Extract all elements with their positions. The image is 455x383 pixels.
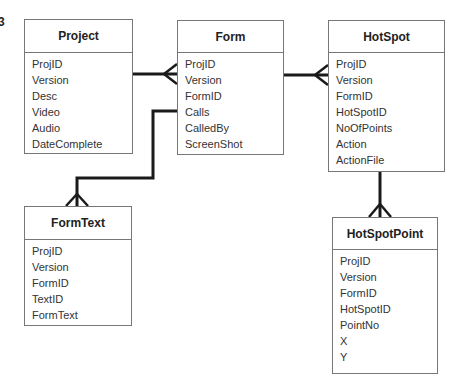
field: HotSpotID	[340, 301, 437, 317]
entity-title: Project	[25, 20, 132, 53]
field: ProjID	[340, 253, 437, 269]
field: Version	[32, 72, 132, 88]
field: DateComplete	[32, 136, 132, 152]
field: Version	[185, 72, 283, 88]
entity-formtext: FormText ProjID Version FormID TextID Fo…	[24, 206, 132, 326]
field: X	[340, 333, 437, 349]
field: Calls	[185, 104, 283, 120]
field: ProjID	[336, 56, 444, 72]
link-project-form	[132, 64, 177, 84]
field-list: ProjID Version FormID TextID FormText	[25, 240, 131, 323]
entity-hotspotpoint: HotSpotPoint ProjID Version FormID HotSp…	[332, 217, 438, 374]
field: CalledBy	[185, 120, 283, 136]
field-list: ProjID Version Desc Video Audio DateComp…	[25, 53, 132, 152]
entity-title: FormText	[25, 207, 131, 240]
link-form-hotspot	[283, 65, 328, 85]
field: HotSpotID	[336, 104, 444, 120]
field: PointNo	[340, 317, 437, 333]
field-list: ProjID Version FormID Calls CalledBy Scr…	[178, 53, 283, 152]
entity-form: Form ProjID Version FormID Calls CalledB…	[177, 20, 284, 155]
field: TextID	[32, 291, 131, 307]
link-hotspot-hotspotpoint	[369, 171, 391, 217]
field: ScreenShot	[185, 136, 283, 152]
field: NoOfPoints	[336, 120, 444, 136]
entity-title: HotSpot	[329, 21, 444, 53]
field: FormID	[336, 88, 444, 104]
field-list: ProjID Version FormID HotSpotID PointNo …	[333, 250, 437, 365]
field: Version	[340, 269, 437, 285]
field: Audio	[32, 120, 132, 136]
entity-title: HotSpotPoint	[333, 218, 437, 250]
field: FormID	[185, 88, 283, 104]
entity-hotspot: HotSpot ProjID Version FormID HotSpotID …	[328, 20, 445, 172]
field: Version	[32, 259, 131, 275]
field: Desc	[32, 88, 132, 104]
field: FormText	[32, 307, 131, 323]
field: ActionFile	[336, 152, 444, 168]
er-diagram: 3	[0, 0, 455, 383]
field: Action	[336, 136, 444, 152]
entity-title: Form	[178, 21, 283, 53]
field: ProjID	[32, 56, 132, 72]
field-list: ProjID Version FormID HotSpotID NoOfPoin…	[329, 53, 444, 168]
field: FormID	[32, 275, 131, 291]
field: ProjID	[32, 243, 131, 259]
field: Y	[340, 349, 437, 365]
entity-project: Project ProjID Version Desc Video Audio …	[24, 19, 133, 154]
field: ProjID	[185, 56, 283, 72]
field: Video	[32, 104, 132, 120]
field: FormID	[340, 285, 437, 301]
field: Version	[336, 72, 444, 88]
